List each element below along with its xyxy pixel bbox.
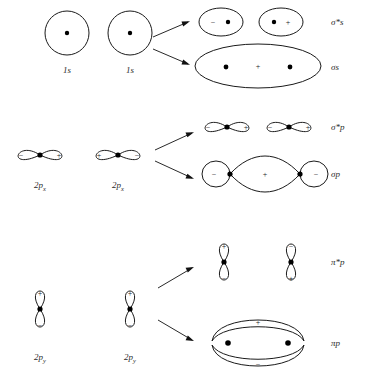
sign-minus: − (222, 273, 227, 282)
sign-minus: − (314, 169, 319, 178)
nucleus-dot (224, 65, 229, 70)
arrow-to-sigma-p (155, 161, 194, 179)
sign-plus: + (263, 169, 268, 178)
antibonding-dumbbell-right: − + (286, 241, 295, 282)
arrow-to-pi-p (158, 320, 194, 341)
arrow-to-pi-star-p (158, 267, 194, 288)
mo-label-sigma-star-p: σ*p (331, 122, 345, 132)
orbital-label-1s-right: 1s (126, 65, 135, 75)
nucleus-dot (288, 259, 293, 264)
atomic-orbital-2py-left: + − 2py (34, 288, 46, 363)
row-2px: − + 2px + − 2px − (18, 122, 345, 192)
mo-label-pi-p: πp (331, 338, 341, 348)
molecular-orbital-sigma-s: + σs (195, 44, 339, 88)
antibonding-lobe-right (259, 8, 303, 36)
sign-plus: + (256, 317, 261, 326)
sign-minus: − (211, 17, 216, 26)
atomic-orbital-2py-right: + − 2py (124, 288, 136, 363)
molecular-orbital-sigma-star-p: − + − + σ*p (205, 122, 345, 132)
nucleus-dot (65, 31, 69, 35)
arrow-to-sigma-star-s (153, 21, 190, 37)
nucleus-dot (297, 171, 302, 176)
arrow-to-sigma-star-p (155, 132, 194, 150)
atomic-orbital-1s-right: 1s (108, 11, 152, 75)
orbital-label-2px-right: 2px (112, 180, 124, 192)
sign-minus: − (19, 150, 24, 159)
nucleus-dot (37, 152, 42, 157)
nucleus-dot (227, 171, 232, 176)
antibonding-dumbbell-left: + − (219, 241, 228, 282)
nucleus-dot (285, 340, 291, 346)
mo-label-sigma-s: σs (331, 62, 339, 72)
sign-plus: + (289, 273, 294, 282)
sign-minus: − (135, 150, 140, 159)
sign-plus: + (222, 241, 227, 250)
nucleus-dot (127, 306, 132, 311)
nucleus-dot (221, 259, 226, 264)
mo-label-sigma-star-s: σ*s (331, 17, 344, 27)
sign-plus: + (306, 122, 311, 131)
molecular-orbital-sigma-star-s: − + σ*s (199, 8, 344, 36)
sign-minus: − (38, 320, 43, 329)
orbital-label-1s-left: 1s (63, 65, 72, 75)
sign-minus: − (128, 320, 133, 329)
sign-minus: − (212, 169, 217, 178)
sign-plus: + (38, 288, 43, 297)
sign-minus: − (256, 359, 261, 368)
sign-plus: + (244, 122, 249, 131)
atomic-orbital-2px-left: − + 2px (18, 150, 62, 191)
nucleus-dot (286, 124, 291, 129)
sign-plus: + (256, 62, 261, 71)
mo-label-pi-star-p: π*p (331, 257, 345, 267)
nucleus-dot (225, 340, 231, 346)
molecular-orbital-pi-p: + − πp (212, 317, 341, 368)
sign-minus: − (268, 122, 273, 131)
sign-minus: − (289, 241, 294, 250)
nucleus-dot (128, 31, 132, 35)
sign-plus: + (286, 17, 291, 26)
orbital-label-2py-left: 2py (34, 352, 46, 364)
row-2py: + − 2py + − 2py + (34, 241, 345, 368)
nucleus-dot (115, 152, 120, 157)
sign-plus: + (57, 150, 62, 159)
antibonding-lobe-left (199, 8, 243, 36)
row-1s: 1s 1s − + σ*s (45, 8, 344, 88)
nucleus-dot (37, 306, 42, 311)
mo-label-sigma-p: σp (331, 169, 340, 179)
arrow-to-sigma-s (153, 49, 190, 65)
sign-plus: + (128, 288, 133, 297)
orbital-label-2py-right: 2py (124, 352, 136, 364)
molecular-orbital-diagram: 1s 1s − + σ*s (0, 0, 370, 382)
nucleus-dot (288, 65, 293, 70)
sign-minus: − (206, 122, 211, 131)
nucleus-dot (224, 124, 229, 129)
nucleus-dot (272, 20, 276, 24)
atomic-orbital-1s-left: 1s (45, 11, 89, 75)
molecular-orbital-sigma-p: − + − σp (202, 156, 340, 192)
sign-plus: + (97, 150, 102, 159)
atomic-orbital-2px-right: + − 2px (96, 150, 140, 191)
molecular-orbital-pi-star-p: + − − + π*p (219, 241, 345, 282)
nucleus-dot (226, 20, 230, 24)
orbital-label-2px-left: 2px (34, 180, 46, 192)
